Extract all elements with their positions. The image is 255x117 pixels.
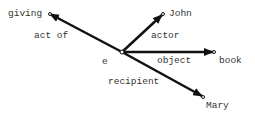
node-john: John — [169, 9, 192, 19]
center-node-e: e — [102, 57, 108, 67]
node-giving: giving — [8, 9, 42, 19]
mary-node-dot — [202, 96, 205, 99]
book-node-dot — [213, 51, 216, 54]
center-node-dot — [120, 50, 124, 54]
john-node-dot — [162, 13, 165, 16]
giving-node-dot — [49, 13, 52, 16]
edge-label-object: object — [157, 56, 191, 66]
node-book: book — [219, 56, 242, 66]
edge-label-actor: actor — [151, 31, 180, 41]
edge-label-recipient: recipient — [108, 77, 159, 87]
node-mary: Mary — [206, 101, 229, 111]
edge-label-act-of: act of — [34, 31, 68, 41]
